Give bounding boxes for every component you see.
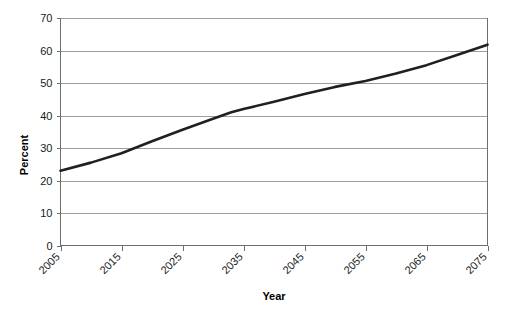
y-tick-label-30: 30 xyxy=(40,142,52,154)
chart-background xyxy=(0,0,513,316)
y-tick-label-40: 40 xyxy=(40,110,52,122)
y-axis-title: Percent xyxy=(18,134,30,175)
y-tick-label-0: 0 xyxy=(46,240,52,252)
x-axis-title: Year xyxy=(262,290,286,302)
chart-container: 010203040506070 200520152025203520452055… xyxy=(0,0,513,316)
y-tick-label-20: 20 xyxy=(40,175,52,187)
y-tick-label-10: 10 xyxy=(40,207,52,219)
y-tick-label-60: 60 xyxy=(40,45,52,57)
y-tick-label-50: 50 xyxy=(40,77,52,89)
line-chart: 010203040506070 200520152025203520452055… xyxy=(0,0,513,316)
y-tick-label-70: 70 xyxy=(40,12,52,24)
